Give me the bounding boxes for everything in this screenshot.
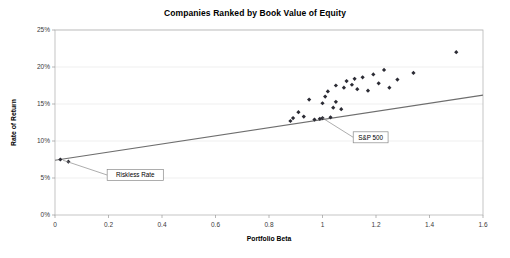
x-tick-label: 0.8 xyxy=(264,221,273,228)
data-point xyxy=(411,71,415,75)
x-tick-label: 1.4 xyxy=(425,221,434,228)
data-point xyxy=(395,77,399,81)
annotation-leader xyxy=(63,160,107,175)
y-tick-label: 15% xyxy=(37,100,50,107)
x-tick-label: 0.4 xyxy=(157,221,166,228)
data-point xyxy=(320,101,324,105)
data-point xyxy=(387,86,391,90)
data-point xyxy=(350,83,354,87)
plot-frame xyxy=(55,30,483,215)
data-point xyxy=(288,119,292,123)
annotations: Riskless RateS&P 500 xyxy=(63,118,388,180)
y-tick-label: 5% xyxy=(41,174,51,181)
scatter-plot: 0%5%10%15%20%25%00.20.40.60.811.21.41.6P… xyxy=(0,0,510,258)
data-point xyxy=(344,79,348,83)
annotation-label: Riskless Rate xyxy=(116,171,155,178)
y-tick-label: 0% xyxy=(41,211,51,218)
x-tick-label: 0 xyxy=(53,221,57,228)
x-tick-label: 1 xyxy=(321,221,325,228)
data-point xyxy=(361,75,365,79)
data-point xyxy=(334,83,338,87)
data-point xyxy=(377,81,381,85)
x-tick-label: 1.2 xyxy=(371,221,380,228)
data-point xyxy=(353,77,357,81)
data-point xyxy=(291,116,295,120)
y-axis-title: Rate of Return xyxy=(10,99,17,146)
annotation-leader xyxy=(323,118,354,137)
x-axis-title: Portfolio Beta xyxy=(247,235,292,242)
x-tick-label: 0.6 xyxy=(211,221,220,228)
data-point xyxy=(331,106,335,110)
y-tick-label: 10% xyxy=(37,137,50,144)
gridlines xyxy=(55,30,483,178)
data-point xyxy=(323,95,327,99)
annotation-label: S&P 500 xyxy=(358,134,383,141)
trend-line xyxy=(55,95,483,160)
data-point xyxy=(296,110,300,114)
data-point xyxy=(334,100,338,104)
data-point xyxy=(342,86,346,90)
data-point xyxy=(366,89,370,93)
data-point xyxy=(302,114,306,118)
y-tick-label: 20% xyxy=(37,63,50,70)
chart-container: Companies Ranked by Book Value of Equity… xyxy=(0,0,510,258)
data-point xyxy=(454,50,458,54)
x-axis: 00.20.40.60.811.21.41.6 xyxy=(53,215,488,228)
x-tick-label: 1.6 xyxy=(478,221,487,228)
data-point xyxy=(307,97,311,101)
x-tick-label: 0.2 xyxy=(104,221,113,228)
data-point xyxy=(339,107,343,111)
data-point xyxy=(58,157,62,161)
y-axis: 0%5%10%15%20%25% xyxy=(37,26,55,218)
y-tick-label: 25% xyxy=(37,26,50,33)
data-point xyxy=(326,89,330,93)
data-point xyxy=(355,87,359,91)
data-point xyxy=(382,68,386,72)
data-point xyxy=(371,72,375,76)
